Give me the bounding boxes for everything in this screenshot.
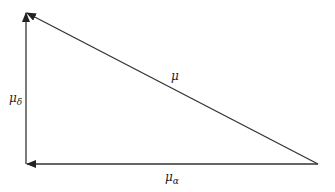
vector-mu xyxy=(27,13,318,164)
label-mu-alpha: μα xyxy=(165,170,179,186)
label-mu-delta: μδ xyxy=(9,91,22,107)
label-mu: μ xyxy=(171,69,179,83)
vector-diagram: μ μα μδ xyxy=(0,0,335,192)
